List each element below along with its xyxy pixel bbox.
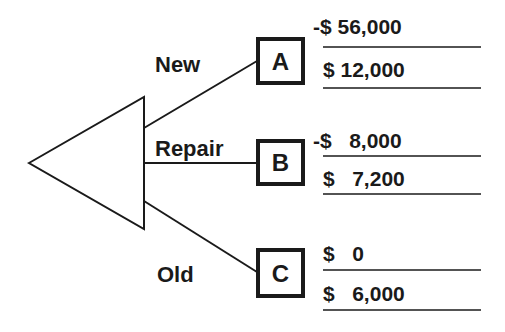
decision-tree-canvas: New Repair Old A B C -$ 56,000 $ 12,000 … [0,0,505,332]
value-c-return: $ 6,000 [323,282,405,305]
decision-triangle-icon [29,97,144,229]
node-letter-c: C [272,260,289,287]
value-c-cost: $ 0 [323,242,364,265]
value-b-return: $ 7,200 [323,167,405,190]
branch-label-new: New [155,52,201,77]
value-a-cost: -$ 56,000 [313,15,402,38]
value-a-return: $ 12,000 [323,58,405,81]
node-b: B [258,141,303,184]
node-letter-b: B [272,149,289,176]
branch-label-repair: Repair [155,136,224,161]
node-c: C [258,250,303,296]
value-b-cost: -$ 8,000 [313,129,402,152]
branch-label-old: Old [157,262,194,287]
node-letter-a: A [272,48,289,75]
decision-tree-diagram: New Repair Old A B C -$ 56,000 $ 12,000 … [0,0,505,332]
node-a: A [258,39,303,83]
